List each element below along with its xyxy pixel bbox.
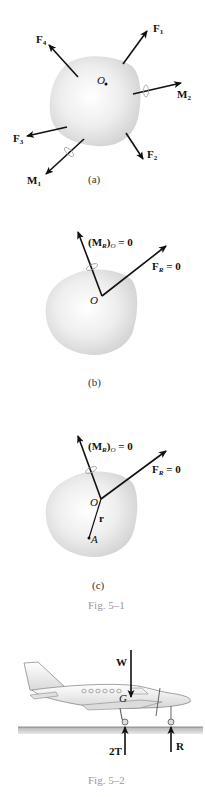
- ground: [18, 727, 203, 734]
- panel-a-caption: (a): [88, 173, 101, 186]
- force-f2-arrow: [126, 133, 143, 159]
- figure-5-1-title: Fig. 5–1: [88, 599, 125, 611]
- nose-gear-reaction-label: R: [176, 740, 185, 752]
- moment-m1-arrow: [46, 139, 84, 174]
- figure-5-2: W G 2T R Fig. 5–2: [18, 650, 203, 786]
- figure-canvas: O F1 F4 M2 F3 M1 F2 (a) O (MR)O = 0 FR =…: [0, 0, 205, 797]
- force-f1-arrow: [123, 31, 147, 64]
- panel-a: O F1 F4 M2 F3 M1 F2 (a): [13, 22, 191, 188]
- resultant-force-label: FR = 0: [152, 260, 181, 274]
- moment-m1-label: M1: [27, 174, 41, 188]
- point-o-label: O: [90, 294, 98, 306]
- rigid-body-blob: [46, 270, 138, 355]
- figure-5-2-title: Fig. 5–2: [88, 774, 125, 786]
- moment-m2-label: M2: [177, 88, 191, 102]
- main-gear-reaction-label: 2T: [109, 745, 123, 757]
- force-f1-label: F1: [153, 22, 164, 36]
- force-f3-label: F3: [13, 132, 24, 146]
- resultant-force-label: FR = 0: [152, 463, 181, 477]
- center-of-gravity-label: G: [119, 692, 127, 704]
- panel-c: O r A (MR)O = 0 FR = 0 (c): [46, 436, 181, 592]
- point-o-label: O: [97, 74, 105, 86]
- resultant-moment-label: (MR)O = 0: [88, 440, 133, 454]
- point-a-label: A: [90, 533, 98, 545]
- force-f2-label: F2: [147, 148, 158, 162]
- position-vector-label: r: [99, 512, 104, 524]
- rigid-body-blob: [50, 56, 141, 146]
- panel-c-caption: (c): [92, 579, 105, 592]
- resultant-moment-label: (MR)O = 0: [88, 236, 133, 250]
- panel-b-caption: (b): [88, 376, 101, 389]
- panel-b: O (MR)O = 0 FR = 0 (b): [46, 232, 181, 389]
- force-f4-label: F4: [36, 33, 47, 47]
- weight-label: W: [116, 656, 127, 668]
- airplane-icon: [24, 662, 190, 725]
- point-o-label: O: [90, 496, 98, 508]
